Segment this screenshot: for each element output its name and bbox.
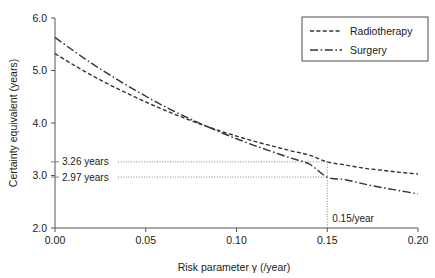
y-axis-ticks xyxy=(51,18,55,228)
x-tick-label-0.20: 0.20 xyxy=(408,234,429,246)
line-chart: 2.03.04.05.06.0 0.000.050.100.150.20 3.2… xyxy=(0,0,435,278)
x-tick-label-0.00: 0.00 xyxy=(45,234,66,246)
legend-label-radiotherapy: Radiotherapy xyxy=(350,25,413,37)
figure-container: 2.03.04.05.06.0 0.000.050.100.150.20 3.2… xyxy=(0,0,435,278)
annotation-surgery-value: 2.97 years xyxy=(62,172,109,183)
y-tick-label-3.0: 3.0 xyxy=(32,169,47,181)
y-tick-label-4.0: 4.0 xyxy=(32,117,47,129)
x-axis-title: Risk parameter γ (/year) xyxy=(178,261,291,273)
y-tick-label-5.0: 5.0 xyxy=(32,64,47,76)
y-axis-tick-labels: 2.03.04.05.06.0 xyxy=(32,12,47,234)
series-line-radiotherapy xyxy=(55,54,418,174)
y-tick-label-6.0: 6.0 xyxy=(32,12,47,24)
x-axis-ticks xyxy=(55,228,418,232)
legend[interactable]: Radiotherapy Surgery xyxy=(302,17,428,61)
y-axis-title: Certainty equivalent (years) xyxy=(7,59,19,187)
x-tick-label-0.10: 0.10 xyxy=(226,234,247,246)
x-tick-label-0.15: 0.15 xyxy=(317,234,338,246)
y-tick-label-2.0: 2.0 xyxy=(32,222,47,234)
legend-label-surgery: Surgery xyxy=(350,44,388,56)
x-axis-tick-labels: 0.000.050.100.150.20 xyxy=(45,234,429,246)
x-tick-label-0.05: 0.05 xyxy=(136,234,157,246)
annotation-risk-marker: 0.15/year xyxy=(332,213,374,224)
annotation-radiotherapy-value: 3.26 years xyxy=(62,156,109,167)
